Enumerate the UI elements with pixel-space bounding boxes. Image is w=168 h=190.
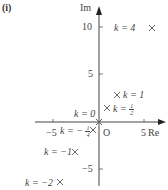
- cross-icon-k1: [114, 92, 120, 98]
- fraction: 12: [129, 103, 134, 116]
- point-label-k4: k = 4: [114, 23, 135, 33]
- x-tick-label-neg5: −5: [46, 128, 57, 138]
- label-prefix: k =: [113, 103, 127, 114]
- x-axis-label: Re: [148, 128, 159, 138]
- cross-icon-khalf: [104, 105, 110, 111]
- fraction: 14: [85, 125, 90, 138]
- point-label-kneg1: k = −1: [44, 147, 72, 157]
- cross-icon-kneg2: [57, 179, 63, 185]
- label-prefix: k = −: [60, 125, 83, 136]
- y-tick-label-10: 10: [82, 22, 92, 32]
- real-axis-arrow-icon: [158, 119, 166, 125]
- cross-icon-k4: [149, 25, 155, 31]
- point-label-khalf: k = 12: [113, 103, 134, 116]
- imaginary-axis-arrow-icon: [96, 6, 102, 15]
- y-tick-label-neg5: −5: [82, 164, 93, 174]
- x-tick-label-5: 5: [141, 128, 146, 138]
- cross-icon-kneg-quarter: [90, 127, 96, 133]
- point-label-k1: k = 1: [123, 90, 144, 100]
- point-label-k0: k = 0: [74, 109, 95, 119]
- origin-label: O: [103, 128, 110, 138]
- y-tick-label-5: 5: [88, 69, 93, 79]
- point-markers: [57, 25, 155, 185]
- point-label-kneg-quarter: k = − 14: [60, 125, 90, 138]
- y-axis-label: Im: [80, 3, 91, 13]
- point-label-kneg2: k = −2: [25, 178, 53, 188]
- cross-icon-kneg1: [72, 149, 78, 155]
